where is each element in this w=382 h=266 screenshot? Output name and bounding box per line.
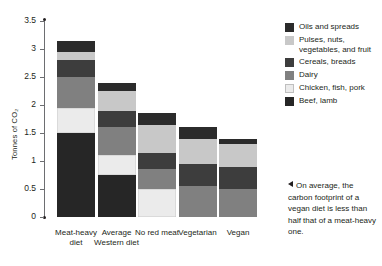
y-tick-label: 3 [14,44,36,53]
bar-segment [219,139,257,145]
y-tick-label: 2.5 [14,72,36,81]
y-tick-mark [40,189,44,190]
legend-item[interactable]: Dairy [285,70,381,80]
bar-meat-heavy-diet[interactable] [57,21,95,217]
legend-item[interactable]: Chicken, fish, pork [285,83,381,93]
bar-segment [179,139,217,164]
legend-item[interactable]: Cereals, breads [285,57,381,67]
chart-legend: Oils and spreadsPulses, nuts, vegetables… [285,22,381,109]
bar-no-red-meat[interactable] [138,21,176,217]
legend-label: Oils and spreads [299,22,359,32]
bar-segment [57,60,95,77]
bar-segment [98,127,136,155]
y-tick-mark [40,49,44,50]
y-tick-mark [40,21,44,22]
legend-item[interactable]: Pulses, nuts, vegetables, and fruit [285,35,381,54]
bar-segment [138,153,176,170]
bar-vegetarian[interactable] [179,21,217,217]
bar-average-western-diet[interactable] [98,21,136,217]
stacked-bar-chart: Tonnes of CO₂ 00.511.522.533.5 Meat-heav… [0,0,382,266]
y-tick-label: 1 [14,156,36,165]
legend-item[interactable]: Beef, lamb [285,96,381,106]
bar-segment [138,113,176,124]
y-tick-mark [40,133,44,134]
bar-segment [219,167,257,189]
legend-label: Dairy [299,70,318,80]
y-tick-mark [40,161,44,162]
bar-segment [138,169,176,189]
bar-segment [98,175,136,217]
y-tick-mark [40,77,44,78]
bar-segment [57,108,95,133]
bar-segment [98,83,136,91]
legend-swatch [285,23,294,32]
legend-label: Pulses, nuts, vegetables, and fruit [299,35,381,54]
chart-annotation: On average, the carbon footprint of a ve… [288,180,380,238]
y-tick-label: 0.5 [14,184,36,193]
legend-label: Beef, lamb [299,96,337,106]
bar-segment [138,189,176,217]
bar-segment [57,133,95,217]
legend-swatch [285,36,294,45]
legend-item[interactable]: Oils and spreads [285,22,381,32]
left-triangle-icon [288,181,293,187]
legend-swatch [285,97,294,106]
bar-segment [179,127,217,138]
legend-label: Chicken, fish, pork [299,83,365,93]
y-tick-label: 3.5 [14,16,36,25]
bar-segment [138,125,176,153]
bar-segment [219,189,257,217]
legend-swatch [285,84,294,93]
legend-label: Cereals, breads [299,57,355,67]
bar-segment [98,111,136,128]
bar-segment [57,41,95,52]
bar-vegan[interactable] [219,21,257,217]
bar-segment [219,144,257,166]
y-tick-mark [40,105,44,106]
bar-segment [57,77,95,108]
legend-swatch [285,71,294,80]
bar-segment [179,186,217,217]
bar-segment [98,91,136,111]
x-axis-category-label: Vegan [210,228,266,238]
y-axis-line [44,21,45,217]
y-tick-label: 0 [14,212,36,221]
y-tick-mark [40,217,44,218]
annotation-text: On average, the carbon footprint of a ve… [288,181,376,236]
y-tick-label: 1.5 [14,128,36,137]
bar-segment [57,52,95,60]
bar-segment [98,155,136,175]
y-tick-label: 2 [14,100,36,109]
bar-segment [179,164,217,186]
legend-swatch [285,58,294,67]
